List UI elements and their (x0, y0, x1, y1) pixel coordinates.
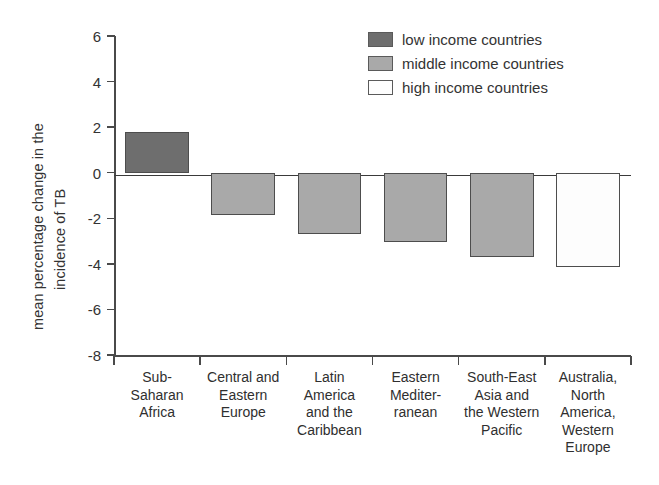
y-axis-tick (107, 218, 115, 220)
legend-swatch-icon (368, 32, 393, 47)
y-axis-tick-label: 4 (61, 73, 101, 90)
x-axis-tick (458, 356, 460, 365)
legend-item-3: high income countries (368, 75, 618, 99)
bar-3 (298, 173, 362, 235)
legend-label: middle income countries (402, 55, 564, 72)
category-label-line: North (541, 387, 635, 405)
bar-5 (470, 173, 534, 257)
y-axis-title-line-2: incidence of TB (52, 189, 68, 290)
legend-swatch-icon (368, 80, 393, 95)
category-label-line: Australia, (541, 369, 635, 387)
y-axis-tick (107, 81, 115, 83)
category-label-line: Europe (196, 404, 290, 422)
zero-baseline (114, 175, 631, 177)
y-axis-tick (107, 172, 115, 174)
y-axis-tick (107, 309, 115, 311)
category-label-line: America (282, 387, 376, 405)
legend-item-1: low income countries (368, 27, 618, 51)
bar-1 (125, 132, 189, 173)
y-axis-tick-label: -8 (61, 347, 101, 364)
category-label-5: South-EastAsia andthe WesternPacific (455, 369, 549, 439)
category-label-line: and the (282, 404, 376, 422)
category-label-line: Western (541, 422, 635, 440)
x-axis-tick (630, 356, 632, 365)
category-label-line: Africa (110, 404, 204, 422)
y-axis-tick-label: -6 (61, 301, 101, 318)
category-label-line: Central and (196, 369, 290, 387)
category-label-line: Caribbean (282, 422, 376, 440)
legend-label: high income countries (402, 79, 548, 96)
category-label-line: Eastern (369, 369, 463, 387)
bar-6 (556, 173, 620, 268)
legend-label: low income countries (402, 31, 542, 48)
category-label-line: Europe (541, 439, 635, 457)
legend: low income countriesmiddle income countr… (368, 27, 618, 99)
bar-4 (384, 173, 448, 242)
y-axis-tick-label: 2 (61, 119, 101, 136)
category-label-line: Asia and (455, 387, 549, 405)
category-label-6: Australia,NorthAmerica,WesternEurope (541, 369, 635, 457)
legend-item-2: middle income countries (368, 51, 618, 75)
y-axis-tick (107, 35, 115, 37)
category-label-3: LatinAmericaand theCaribbean (282, 369, 376, 439)
category-label-4: EasternMediter-ranean (369, 369, 463, 422)
bar-2 (211, 173, 275, 215)
category-label-1: Sub-SaharanAfrica (110, 369, 204, 422)
category-label-line: Pacific (455, 422, 549, 440)
y-axis-tick-label: -2 (61, 210, 101, 227)
y-axis-tick-label: 6 (61, 28, 101, 45)
y-axis-tick (107, 263, 115, 265)
category-label-line: South-East (455, 369, 549, 387)
category-label-line: Mediter- (369, 387, 463, 405)
x-axis-tick (372, 356, 374, 365)
y-axis-title: mean percentage change in the incidence … (8, 0, 64, 360)
category-label-line: the Western (455, 404, 549, 422)
category-label-line: America, (541, 404, 635, 422)
category-label-2: Central andEasternEurope (196, 369, 290, 422)
x-axis-tick (544, 356, 546, 365)
category-label-line: Eastern (196, 387, 290, 405)
category-label-line: Saharan (110, 387, 204, 405)
x-axis-tick (113, 356, 115, 365)
category-label-line: Latin (282, 369, 376, 387)
legend-swatch-icon (368, 56, 393, 71)
category-label-line: ranean (369, 404, 463, 422)
x-axis-tick (199, 356, 201, 365)
y-axis-tick (107, 126, 115, 128)
y-axis-tick-label: -4 (61, 255, 101, 272)
category-label-line: Sub- (110, 369, 204, 387)
y-axis-tick-label: 0 (61, 164, 101, 181)
tb-incidence-bar-chart: mean percentage change in the incidence … (0, 0, 659, 485)
y-axis-title-line-1: mean percentage change in the (30, 123, 46, 330)
x-axis-tick (286, 356, 288, 365)
